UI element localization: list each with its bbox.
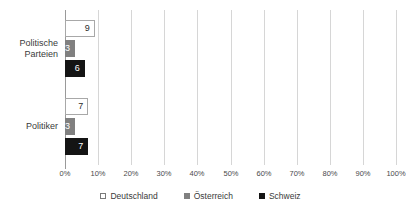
legend-item: Deutschland <box>100 191 157 201</box>
category-label: PolitischeParteien <box>0 38 58 60</box>
legend-item: Österreich <box>184 191 233 201</box>
bar-groups: 936737 <box>65 10 396 165</box>
category-axis-labels: PolitischeParteienPolitiker <box>0 10 62 165</box>
bar: 7 <box>65 138 88 155</box>
x-axis-tick-label: 40% <box>189 169 204 179</box>
category-label-line: Parteien <box>0 49 58 60</box>
bar-value-label: 3 <box>65 122 70 131</box>
x-axis-tick-label: 20% <box>123 169 138 179</box>
bar: 6 <box>65 60 85 77</box>
chart-legend: DeutschlandÖsterreichSchweiz <box>0 191 401 201</box>
x-axis-tick-label: 0% <box>60 169 71 179</box>
bar-value-label: 6 <box>75 64 80 73</box>
legend-item: Schweiz <box>259 191 301 201</box>
bar: 3 <box>65 118 75 135</box>
plot-area: 936737 <box>65 10 396 165</box>
x-axis-tick-labels: 0%10%20%30%40%50%60%70%80%90%100% <box>65 169 396 181</box>
x-axis-tick-label: 80% <box>322 169 337 179</box>
legend-swatch-icon <box>184 193 190 199</box>
legend-label: Schweiz <box>269 191 301 201</box>
x-axis-tick-label: 50% <box>223 169 238 179</box>
bar-value-label: 9 <box>85 24 90 33</box>
category-label: Politiker <box>0 121 58 132</box>
x-axis-tick-label: 30% <box>156 169 171 179</box>
bar-group: 936 <box>65 10 396 88</box>
legend-label: Deutschland <box>110 191 157 201</box>
x-axis-tick-label: 60% <box>256 169 271 179</box>
bar-value-label: 7 <box>78 102 83 111</box>
bar-value-label: 7 <box>78 142 83 151</box>
bar: 3 <box>65 40 75 57</box>
bar-group: 737 <box>65 88 396 166</box>
legend-label: Österreich <box>194 191 233 201</box>
x-axis-tick-label: 70% <box>289 169 304 179</box>
category-label-line: Politische <box>0 38 58 49</box>
x-axis-tick-label: 10% <box>90 169 105 179</box>
gridline <box>396 10 397 165</box>
category-label-line: Politiker <box>0 121 58 132</box>
x-axis-tick-label: 100% <box>386 169 405 179</box>
legend-swatch-icon <box>259 193 265 199</box>
bar-value-label: 3 <box>65 44 70 53</box>
bar: 7 <box>65 98 88 115</box>
legend-swatch-icon <box>100 193 106 199</box>
x-axis-tick-label: 90% <box>355 169 370 179</box>
bar: 9 <box>65 20 95 37</box>
